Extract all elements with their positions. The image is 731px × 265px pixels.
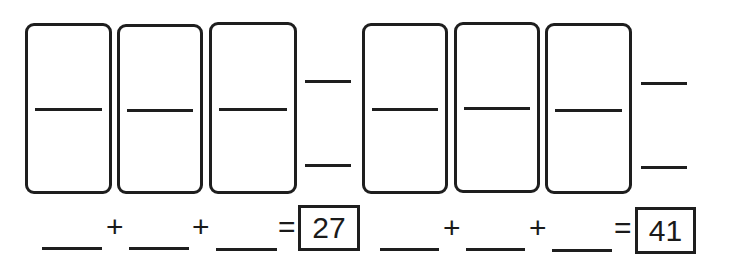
domino-divider	[127, 109, 193, 112]
sum-box: 27	[298, 205, 360, 251]
plus-sign: +	[443, 213, 461, 243]
addend-blank-1[interactable]	[380, 248, 439, 251]
side-answer-top-blank[interactable]	[305, 80, 351, 83]
addend-blank-3[interactable]	[216, 248, 277, 251]
domino-1	[25, 23, 112, 194]
plus-sign: +	[192, 212, 210, 242]
plus-sign: +	[106, 212, 124, 242]
domino-divider	[35, 108, 102, 111]
addend-blank-2[interactable]	[466, 248, 525, 251]
domino-divider	[464, 107, 530, 110]
domino-5	[454, 22, 540, 193]
domino-divider	[219, 108, 287, 111]
addend-blank-1[interactable]	[42, 247, 102, 250]
sum-value: 41	[649, 214, 682, 248]
sum-box: 41	[635, 207, 696, 254]
equals-sign: =	[614, 213, 632, 243]
side-answer-bottom-blank[interactable]	[305, 164, 351, 167]
sum-value: 27	[312, 211, 345, 245]
equals-sign: =	[278, 212, 296, 242]
side-answer-top-blank[interactable]	[641, 82, 687, 85]
addend-blank-2[interactable]	[129, 247, 189, 250]
domino-3	[209, 22, 297, 194]
plus-sign: +	[529, 213, 547, 243]
side-answer-bottom-blank[interactable]	[641, 166, 687, 169]
domino-divider	[372, 108, 438, 111]
domino-4	[362, 23, 448, 194]
domino-2	[117, 24, 203, 194]
domino-6	[545, 23, 632, 194]
domino-divider	[555, 109, 622, 112]
addend-blank-3[interactable]	[552, 249, 612, 252]
